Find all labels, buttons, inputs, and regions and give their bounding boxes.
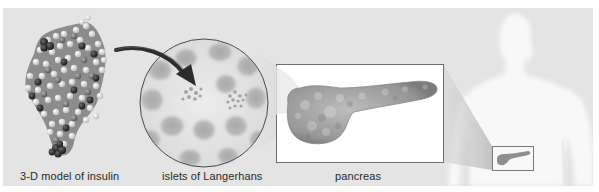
pancreas-location-box — [493, 147, 534, 171]
label-pancreas: pancreas — [335, 170, 381, 182]
insulin-pancreas-diagram — [0, 0, 599, 192]
islets-circle — [138, 39, 268, 168]
pancreas-panel — [276, 65, 444, 163]
label-insulin-model: 3-D model of insulin — [20, 170, 119, 182]
insulin-molecule — [25, 15, 107, 157]
label-islets-of-langerhans: islets of Langerhans — [162, 170, 262, 182]
